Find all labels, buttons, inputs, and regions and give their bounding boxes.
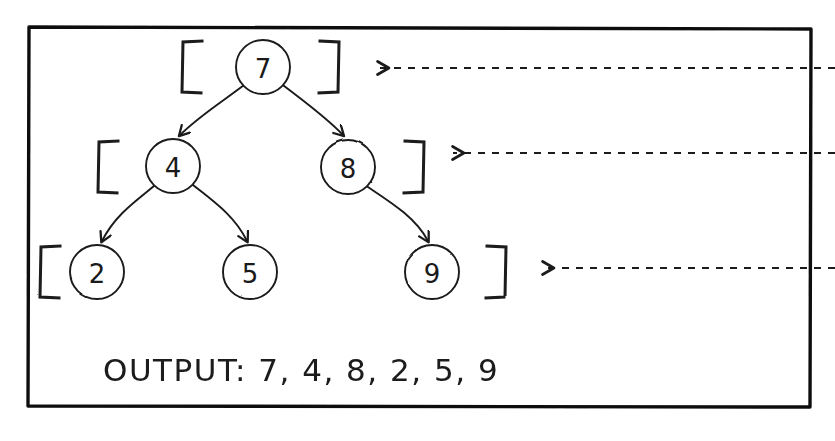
edge-4-to-5: [188, 181, 247, 241]
level-callout-arrows: [378, 68, 835, 268]
node-label-4: 4: [165, 153, 182, 183]
edge-7-to-4: [180, 82, 248, 135]
node-label-5: 5: [242, 259, 259, 289]
node-label-7: 7: [255, 54, 272, 84]
tree-node-2[interactable]: 2: [70, 245, 124, 299]
tree-nodes: 7 4 8 2 5 9: [70, 40, 459, 299]
tree-node-8[interactable]: 8: [321, 140, 375, 194]
tree-node-5[interactable]: 5: [223, 245, 277, 299]
bracket-right-level-1: [404, 141, 424, 193]
node-label-8: 8: [340, 154, 357, 184]
bracket-left-level-2: [40, 246, 60, 298]
node-label-9: 9: [424, 259, 441, 289]
edge-7-to-8: [279, 82, 343, 135]
tree-node-9[interactable]: 9: [405, 245, 459, 299]
sketch-canvas: 7 4 8 2 5 9: [0, 0, 835, 441]
tree-diagram-svg: 7 4 8 2 5 9: [0, 0, 835, 441]
node-label-2: 2: [89, 259, 106, 289]
bracket-right-level-2: [486, 246, 506, 298]
tree-node-7[interactable]: 7: [236, 40, 290, 94]
bracket-right-level-0: [319, 41, 339, 93]
edge-4-to-2: [102, 181, 160, 241]
tree-node-4[interactable]: 4: [146, 139, 200, 193]
bracket-left-level-1: [98, 141, 118, 193]
output-text: OUTPUT: 7, 4, 8, 2, 5, 9: [103, 352, 499, 388]
output-line: OUTPUT: 7, 4, 8, 2, 5, 9: [103, 352, 499, 388]
outer-border-box: [28, 27, 811, 407]
bracket-left-level-0: [182, 41, 202, 93]
